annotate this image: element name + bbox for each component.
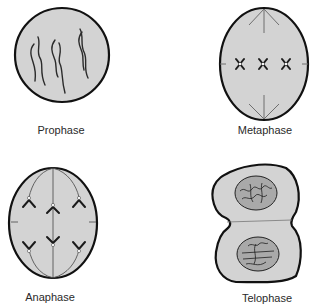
metaphase-cell [220, 8, 308, 120]
prophase-label: Prophase [37, 124, 84, 136]
metaphase-label: Metaphase [238, 124, 292, 136]
telophase-cell [213, 165, 301, 283]
anaphase-label: Anaphase [25, 291, 75, 303]
telophase-label: Telophase [242, 292, 292, 304]
telophase-nucleus-top [235, 176, 277, 210]
telophase-nucleus-bottom [237, 237, 279, 271]
prophase-cell [15, 8, 109, 102]
anaphase-cell [9, 168, 97, 278]
mitosis-diagram [0, 0, 321, 308]
